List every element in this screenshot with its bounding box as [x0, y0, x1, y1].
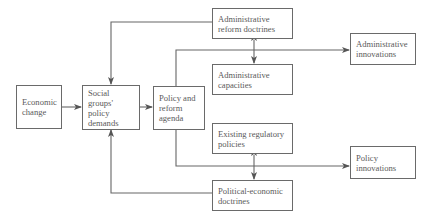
node-economic-change: Economicchange — [16, 85, 62, 129]
node-existing-regulatory-policies: Existing regulatorypolicies — [212, 123, 293, 154]
node-administrative-reform-doctrines: Administrativereform doctrines — [212, 8, 293, 39]
node-social-groups-policy-demands: Social groups'policydemands — [82, 85, 140, 130]
edge-doctrines-to-social — [111, 22, 212, 84]
node-administrative-capacities: Administrativecapacities — [212, 64, 293, 95]
node-administrative-innovations: Administrativeinnovations — [350, 33, 416, 65]
node-policy-innovations: Policyinnovations — [350, 146, 416, 179]
node-political-economic-doctrines: Political-economicdoctrines — [212, 180, 293, 211]
node-policy-reform-agenda: Policy andreformagenda — [153, 86, 205, 130]
edge-poleco-to-social — [111, 130, 212, 193]
